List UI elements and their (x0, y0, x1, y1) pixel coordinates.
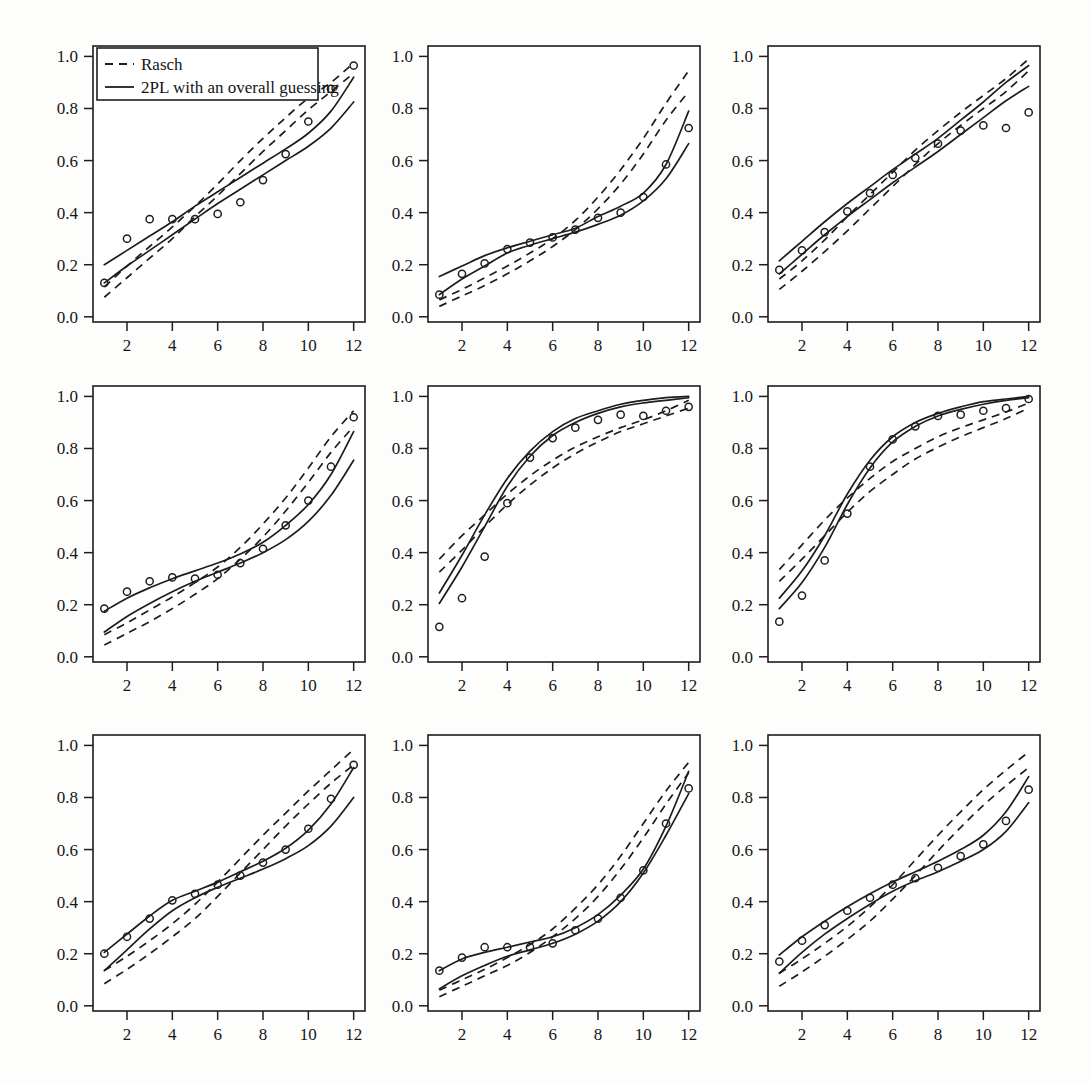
x-tick-label: 10 (300, 676, 317, 695)
x-tick-label: 6 (888, 1025, 897, 1044)
x-tick-label: 6 (548, 676, 557, 695)
x-tick-label: 6 (213, 676, 222, 695)
y-tick-label: 0.4 (57, 544, 79, 563)
y-tick-label: 0.2 (57, 596, 78, 615)
x-tick-label: 8 (934, 676, 943, 695)
x-tick-label: 12 (345, 1025, 362, 1044)
x-tick-label: 10 (635, 1025, 652, 1044)
y-tick-label: 0.8 (392, 99, 413, 118)
x-tick-label: 6 (213, 336, 222, 355)
x-tick-label: 2 (798, 1025, 807, 1044)
y-tick-label: 0.2 (392, 256, 413, 275)
x-tick-label: 10 (975, 676, 992, 695)
x-tick-label: 10 (300, 336, 317, 355)
x-tick-label: 4 (843, 1025, 852, 1044)
x-tick-label: 12 (345, 676, 362, 695)
y-tick-label: 0.6 (57, 841, 78, 860)
x-tick-label: 10 (975, 336, 992, 355)
y-tick-label: 0.0 (57, 997, 78, 1016)
y-tick-label: 0.8 (732, 99, 753, 118)
plot-area-6 (768, 386, 1040, 662)
y-tick-label: 1.0 (57, 387, 78, 406)
x-tick-label: 4 (503, 1025, 512, 1044)
y-tick-label: 0.2 (732, 945, 753, 964)
y-tick-label: 0.4 (57, 204, 79, 223)
y-tick-label: 0.4 (732, 544, 754, 563)
x-tick-label: 12 (680, 336, 697, 355)
y-tick-label: 0.0 (732, 308, 753, 327)
legend-label: Rasch (141, 55, 183, 74)
y-tick-label: 0.4 (732, 893, 754, 912)
x-tick-label: 6 (548, 1025, 557, 1044)
x-tick-label: 8 (259, 676, 268, 695)
y-tick-label: 1.0 (732, 736, 753, 755)
chart-panel-3: 0.00.20.40.60.81.024681012 (732, 46, 1040, 355)
x-tick-label: 4 (168, 1025, 177, 1044)
y-tick-label: 0.6 (57, 152, 78, 171)
x-tick-label: 2 (458, 1025, 467, 1044)
x-tick-label: 10 (635, 336, 652, 355)
x-tick-label: 6 (888, 336, 897, 355)
y-tick-label: 1.0 (732, 47, 753, 66)
legend: Rasch2PL with an overall guessing (97, 48, 339, 100)
panel-grid-svg: 0.00.20.40.60.81.0246810120.00.20.40.60.… (0, 0, 1090, 1083)
y-tick-label: 0.8 (392, 788, 413, 807)
y-tick-label: 0.2 (732, 256, 753, 275)
x-tick-label: 2 (798, 676, 807, 695)
x-tick-label: 2 (123, 336, 132, 355)
y-tick-label: 0.8 (57, 439, 78, 458)
x-tick-label: 2 (123, 676, 132, 695)
x-tick-label: 2 (798, 336, 807, 355)
x-tick-label: 8 (259, 1025, 268, 1044)
y-tick-label: 0.0 (732, 997, 753, 1016)
x-tick-label: 12 (680, 676, 697, 695)
y-tick-label: 0.0 (392, 997, 413, 1016)
x-tick-label: 2 (123, 1025, 132, 1044)
x-tick-label: 6 (888, 676, 897, 695)
chart-panel-8: 0.00.20.40.60.81.024681012 (392, 735, 700, 1044)
legend-label: 2PL with an overall guessing (141, 78, 339, 97)
x-tick-label: 12 (345, 336, 362, 355)
chart-panel-5: 0.00.20.40.60.81.024681012 (392, 386, 700, 695)
x-tick-label: 4 (168, 336, 177, 355)
chart-panel-7: 0.00.20.40.60.81.024681012 (57, 735, 365, 1044)
y-tick-label: 0.8 (57, 788, 78, 807)
multi-panel-figure: 0.00.20.40.60.81.0246810120.00.20.40.60.… (0, 0, 1090, 1083)
x-tick-label: 4 (843, 676, 852, 695)
y-tick-label: 1.0 (57, 47, 78, 66)
y-tick-label: 1.0 (57, 736, 78, 755)
y-tick-label: 0.4 (732, 204, 754, 223)
y-tick-label: 0.2 (57, 945, 78, 964)
y-tick-label: 0.2 (392, 596, 413, 615)
x-tick-label: 12 (1020, 336, 1037, 355)
x-tick-label: 4 (843, 336, 852, 355)
y-tick-label: 0.4 (57, 893, 79, 912)
y-tick-label: 0.2 (392, 945, 413, 964)
chart-panel-6: 0.00.20.40.60.81.024681012 (732, 386, 1040, 695)
y-tick-label: 0.8 (732, 439, 753, 458)
x-tick-label: 8 (934, 336, 943, 355)
y-tick-label: 0.6 (392, 492, 413, 511)
y-tick-label: 0.4 (392, 204, 414, 223)
y-tick-label: 1.0 (732, 387, 753, 406)
y-tick-label: 0.2 (57, 256, 78, 275)
plot-area-4 (93, 386, 365, 662)
x-tick-label: 10 (635, 676, 652, 695)
y-tick-label: 0.0 (732, 648, 753, 667)
y-tick-label: 0.0 (392, 308, 413, 327)
y-tick-label: 0.4 (392, 893, 414, 912)
plot-area-2 (428, 46, 700, 322)
x-tick-label: 8 (594, 676, 603, 695)
y-tick-label: 0.4 (392, 544, 414, 563)
chart-panel-4: 0.00.20.40.60.81.024681012 (57, 386, 365, 695)
x-tick-label: 4 (168, 676, 177, 695)
y-tick-label: 0.6 (732, 841, 753, 860)
y-tick-label: 1.0 (392, 736, 413, 755)
y-tick-label: 0.6 (57, 492, 78, 511)
x-tick-label: 8 (259, 336, 268, 355)
x-tick-label: 6 (548, 336, 557, 355)
x-tick-label: 4 (503, 336, 512, 355)
x-tick-label: 8 (934, 1025, 943, 1044)
y-tick-label: 1.0 (392, 387, 413, 406)
y-tick-label: 0.0 (57, 648, 78, 667)
